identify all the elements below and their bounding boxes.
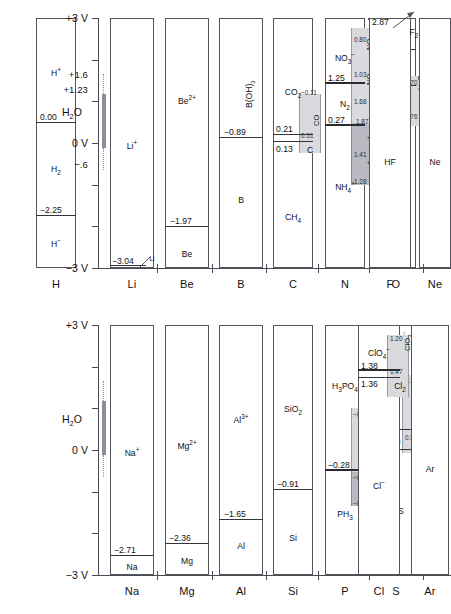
- species-SiO2: SiO2: [273, 405, 313, 416]
- water2-dotted-lower: [103, 455, 107, 477]
- value-Cl-strip-1.20: 1.20: [390, 336, 402, 342]
- y-tick2-minus1: [92, 492, 98, 493]
- y-tick2-2: [92, 367, 98, 368]
- species-Ar: Ar: [411, 465, 449, 474]
- value-Mg-minus2.36: −2.36: [169, 534, 191, 543]
- x-tick-row2-3: [266, 571, 267, 580]
- value-Si-minus0.91: −0.91: [277, 480, 299, 489]
- y-tick2-1: [92, 408, 98, 409]
- water2-stability-bar: [102, 401, 106, 455]
- y-axis2-label-top: +3 V: [40, 319, 88, 331]
- y-tick2-minus2: [92, 533, 98, 534]
- value-Na-minus2.71: −2.71: [114, 546, 136, 555]
- boundary-Cl-1.36: [358, 377, 400, 378]
- value-Al-minus1.65: −1.65: [224, 510, 246, 519]
- species-F2: F2: [404, 28, 424, 39]
- species-Na-plus: Na+: [110, 447, 154, 457]
- element-name-Si: Si: [273, 585, 313, 597]
- boundary-Na-minus2.71: [110, 555, 154, 556]
- species-perchlorate: ClO4−: [358, 347, 400, 360]
- value-Cl-1.36: 1.36: [361, 380, 378, 389]
- y-axis-line-row2: [98, 325, 99, 575]
- boundary-Al-minus1.65: [219, 519, 263, 520]
- element-column-Al[interactable]: [219, 325, 263, 575]
- species-Mg-metal: Mg: [165, 557, 209, 566]
- species-Na-metal: Na: [110, 563, 154, 572]
- x-tick-row2-4: [318, 571, 319, 580]
- species-Al-3plus: Al3+: [219, 414, 263, 424]
- water2-h: H: [62, 413, 70, 425]
- species-HF: HF: [369, 158, 411, 167]
- element-name-Al: Al: [219, 585, 263, 597]
- boundary-Si-minus0.91: [273, 489, 313, 490]
- value-P-minus0.28: −0.28: [328, 461, 350, 470]
- y-axis2-label-bottom: −3 V: [40, 569, 88, 581]
- species-Si-elemental: Si: [273, 534, 313, 543]
- value-Cl-1.38: 1.38: [361, 362, 378, 371]
- water2-o: O: [74, 413, 82, 425]
- species-chloride: Cl−: [358, 480, 400, 490]
- element-name-F: F: [369, 278, 411, 290]
- water2-species-label: H2O: [62, 413, 82, 428]
- species-Mg-2plus: Mg2+: [165, 440, 209, 450]
- element-column-F[interactable]: [369, 18, 411, 268]
- y-axis2-label-zero: 0 V: [40, 444, 88, 456]
- x-axis-line-row2: [98, 575, 451, 576]
- value-Cl-strip-1.47: 1.47: [390, 369, 402, 375]
- element-name-Ar: Ar: [411, 585, 449, 597]
- value-F-2.87: 2.87: [372, 18, 389, 27]
- y-tick2-0: [92, 450, 98, 451]
- y-tick2-3: [92, 325, 98, 326]
- x-tick-row2-1: [157, 571, 158, 580]
- element-name-Na: Na: [110, 585, 154, 597]
- x-tick-row2-2: [212, 571, 213, 580]
- boundary-Mg-minus2.36: [165, 543, 209, 544]
- element-name-Cl: Cl: [358, 585, 400, 597]
- species-Al-metal: Al: [219, 542, 263, 551]
- element-column-Ar[interactable]: [411, 325, 449, 575]
- element-name-Mg: Mg: [165, 585, 209, 597]
- species-Cl2: Cl2: [389, 382, 411, 393]
- water2-dotted-upper: [103, 381, 107, 401]
